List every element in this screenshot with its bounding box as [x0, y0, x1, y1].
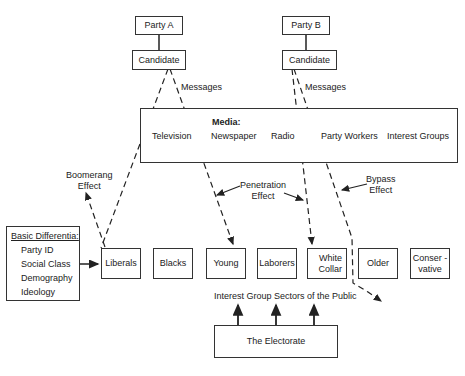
party-a-label: Party A — [144, 20, 173, 31]
sector-label: Young — [213, 258, 238, 269]
media-title: Media: — [212, 117, 241, 128]
sector-label: Older — [367, 258, 389, 269]
bypass-effect-label: Bypass Effect — [366, 174, 396, 196]
sector-young: Young — [206, 248, 246, 279]
sector-laborers: Laborers — [257, 248, 297, 279]
media-item-radio: Radio — [271, 131, 295, 141]
differentia-ideology: Ideology — [7, 285, 79, 299]
penetration-line2: Effect — [240, 191, 286, 202]
party-b-box: Party B — [282, 16, 330, 35]
sector-label-line1: White — [319, 253, 342, 264]
electorate-label: The Electorate — [247, 336, 306, 347]
sector-white-collar: White Collar — [307, 248, 347, 279]
differentia-party-id: Party ID — [7, 243, 79, 257]
sector-older: Older — [358, 248, 398, 279]
media-item-television: Television — [152, 131, 192, 141]
sector-label: Blacks — [160, 258, 187, 269]
party-a-box: Party A — [135, 16, 183, 35]
sector-conservative: Conser - vative — [410, 248, 450, 279]
boomerang-line1: Boomerang — [66, 170, 113, 181]
media-item-newspaper: Newspaper — [211, 131, 257, 141]
boomerang-line2: Effect — [66, 181, 113, 192]
sector-label: Laborers — [259, 258, 295, 269]
differentia-title: Basic Differentia: — [7, 230, 79, 243]
candidate-a-label: Candidate — [138, 55, 179, 66]
bypass-line2: Effect — [366, 185, 396, 196]
penetration-effect-label: Penetration Effect — [240, 180, 286, 202]
candidate-b-label: Candidate — [289, 55, 330, 66]
media-item-party-workers: Party Workers — [321, 131, 378, 141]
sectors-caption: Interest Group Sectors of the Public — [214, 291, 357, 302]
penetration-line1: Penetration — [240, 180, 286, 191]
boomerang-effect-label: Boomerang Effect — [66, 170, 113, 192]
messages-b-label: Messages — [305, 82, 346, 93]
media-item-interest-groups: Interest Groups — [387, 131, 449, 141]
basic-differentia-box: Basic Differentia: Party ID Social Class… — [6, 226, 80, 301]
sector-blacks: Blacks — [153, 248, 193, 279]
sector-label-line2: vative — [418, 264, 442, 275]
differentia-social-class: Social Class — [7, 257, 79, 271]
party-b-label: Party B — [291, 20, 321, 31]
sector-label-line2: Collar — [318, 264, 342, 275]
messages-a-label: Messages — [181, 82, 222, 93]
electorate-box: The Electorate — [214, 325, 338, 358]
bypass-line1: Bypass — [366, 174, 396, 185]
sector-label-line1: Conser - — [413, 253, 448, 264]
candidate-b-box: Candidate — [282, 50, 337, 70]
sector-liberals: Liberals — [101, 248, 141, 279]
sector-label: Liberals — [105, 258, 137, 269]
differentia-demography: Demography — [7, 271, 79, 285]
candidate-a-box: Candidate — [132, 50, 186, 70]
